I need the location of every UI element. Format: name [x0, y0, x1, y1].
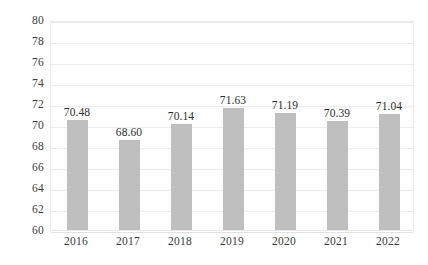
x-axis-tick-label: 2019	[220, 236, 244, 248]
y-axis-tick-label: 78	[0, 36, 44, 48]
y-axis-tick-label: 70	[0, 120, 44, 132]
gridline	[51, 232, 413, 233]
x-axis-tick-label: 2018	[168, 236, 192, 248]
bar[interactable]	[119, 140, 140, 230]
y-axis-tick-label: 72	[0, 99, 44, 111]
bar[interactable]	[379, 114, 400, 230]
x-axis-tick-label: 2016	[64, 236, 88, 248]
plot-area: 70.4868.6070.1471.6371.1970.3971.04	[50, 21, 414, 231]
x-axis-tick-label: 2017	[116, 236, 140, 248]
x-axis: 2016201720182019202020212022	[50, 236, 414, 258]
y-axis-tick-label: 66	[0, 162, 44, 174]
bar[interactable]	[67, 120, 88, 230]
bar[interactable]	[171, 124, 192, 230]
y-axis-tick-label: 76	[0, 57, 44, 69]
bar-chart: 8078767472706866646260 70.4868.6070.1471…	[0, 0, 428, 265]
bars-layer	[51, 22, 413, 230]
bar[interactable]	[275, 113, 296, 230]
bar[interactable]	[223, 108, 244, 230]
x-axis-tick-label: 2021	[324, 236, 348, 248]
y-axis-tick-label: 62	[0, 204, 44, 216]
y-axis: 8078767472706866646260	[0, 0, 44, 265]
x-axis-tick-label: 2022	[376, 236, 400, 248]
y-axis-tick-label: 80	[0, 15, 44, 27]
x-axis-tick-label: 2020	[272, 236, 296, 248]
y-axis-tick-label: 60	[0, 225, 44, 237]
bar[interactable]	[327, 121, 348, 230]
y-axis-tick-label: 64	[0, 183, 44, 195]
y-axis-tick-label: 74	[0, 78, 44, 90]
y-axis-tick-label: 68	[0, 141, 44, 153]
